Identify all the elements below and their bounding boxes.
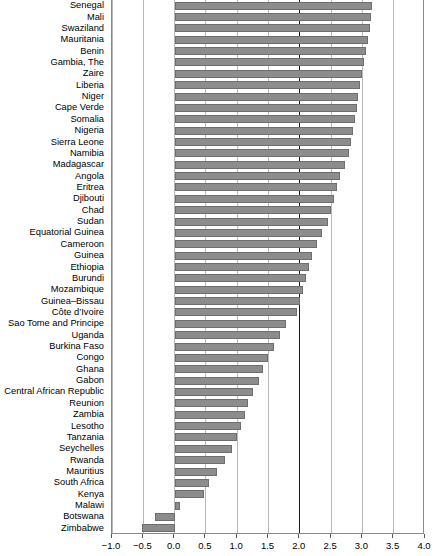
category-label: Ethiopia (70, 262, 104, 272)
category-label: Gambia, The (50, 57, 104, 67)
x-tick-label: 3.5 (386, 540, 399, 551)
category-label: Congo (77, 352, 104, 362)
bar (175, 365, 264, 373)
bar (175, 36, 368, 44)
category-label: Zambia (73, 409, 104, 419)
category-label: Niger (82, 91, 104, 101)
bar (175, 388, 253, 396)
category-label: Benin (80, 46, 104, 56)
bar (175, 138, 352, 146)
bar (175, 456, 225, 464)
category-label: Malawi (75, 500, 104, 510)
x-tick-mark (267, 534, 268, 538)
x-tick-label: 0.0 (167, 540, 180, 551)
category-label: Cape Verde (55, 102, 104, 112)
bar (175, 149, 350, 157)
x-tick-label: −0.5 (133, 540, 152, 551)
bar (142, 524, 175, 532)
bar (175, 240, 318, 248)
category-label: Burundi (72, 273, 104, 283)
category-label: Guinea (74, 250, 104, 260)
x-tick-mark (361, 534, 362, 538)
category-label: Burkina Faso (49, 341, 104, 351)
bar (175, 297, 300, 305)
category-label: Mozambique (51, 284, 104, 294)
x-tick-mark (173, 534, 174, 538)
bar (175, 2, 373, 10)
bar (175, 286, 303, 294)
category-label: Ghana (76, 364, 104, 374)
bar (175, 433, 238, 441)
category-label: Equatorial Guinea (30, 227, 104, 237)
category-label: Madagascar (53, 159, 104, 169)
x-tick-label: 2.5 (323, 540, 336, 551)
bar (175, 161, 345, 169)
category-axis-labels: SenegalMaliSwazilandMauritaniaBeninGambi… (0, 0, 108, 534)
horizontal-bar-chart: SenegalMaliSwazilandMauritaniaBeninGambi… (0, 0, 439, 556)
bar (175, 206, 332, 214)
category-label: Mali (87, 12, 104, 22)
category-label: South Africa (54, 477, 104, 487)
bar (155, 513, 175, 521)
bar (175, 377, 260, 385)
plot-area (111, 0, 424, 534)
bar (175, 127, 353, 135)
category-label: Reunion (69, 398, 104, 408)
category-label: Mauritania (61, 34, 104, 44)
bar (175, 422, 241, 430)
category-label: Eritrea (77, 182, 104, 192)
bar (175, 252, 313, 260)
bar (175, 320, 286, 328)
bar (175, 354, 269, 362)
category-label: Tanzania (67, 432, 104, 442)
bar (175, 81, 360, 89)
category-label: Sudan (77, 216, 104, 226)
bar (175, 468, 218, 476)
bar (175, 479, 209, 487)
x-tick-mark (236, 534, 237, 538)
x-tick-mark (424, 534, 425, 538)
category-label: Botswana (63, 511, 104, 521)
bar (175, 93, 358, 101)
bar (175, 263, 310, 271)
x-tick-label: 4.0 (417, 540, 430, 551)
category-label: Côte d’Ivoire (52, 307, 104, 317)
category-label: Seychelles (59, 443, 104, 453)
bar (175, 399, 249, 407)
category-label: Angola (75, 171, 104, 181)
x-tick-mark (298, 534, 299, 538)
bar (175, 172, 341, 180)
category-label: Nigeria (75, 125, 104, 135)
category-label: Kenya (78, 489, 104, 499)
bar (175, 331, 280, 339)
x-tick-mark (392, 534, 393, 538)
gridline (331, 0, 332, 533)
category-label: Namibia (70, 148, 104, 158)
category-label: Liberia (76, 80, 104, 90)
bar (175, 343, 274, 351)
gridline (362, 0, 363, 533)
bar (175, 502, 180, 510)
category-label: Chad (82, 205, 104, 215)
bar (175, 115, 355, 123)
x-tick-label: 3.0 (355, 540, 368, 551)
bar (175, 24, 370, 32)
x-tick-mark (204, 534, 205, 538)
bar (175, 70, 362, 78)
bar (175, 218, 328, 226)
bar (175, 58, 365, 66)
category-label: Guinea–Bissau (41, 296, 104, 306)
category-label: Zaire (83, 68, 104, 78)
category-label: Senegal (70, 0, 104, 10)
x-tick-label: −1.0 (102, 540, 121, 551)
bar (175, 229, 322, 237)
bar (175, 104, 357, 112)
category-label: Rwanda (70, 455, 104, 465)
category-label: Djibouti (73, 193, 104, 203)
category-label: Gabon (76, 375, 104, 385)
bar (175, 308, 297, 316)
category-label: Zimbabwe (61, 523, 104, 533)
x-tick-label: 2.0 (292, 540, 305, 551)
category-label: Sierra Leone (51, 137, 104, 147)
x-tick-label: 1.5 (261, 540, 274, 551)
